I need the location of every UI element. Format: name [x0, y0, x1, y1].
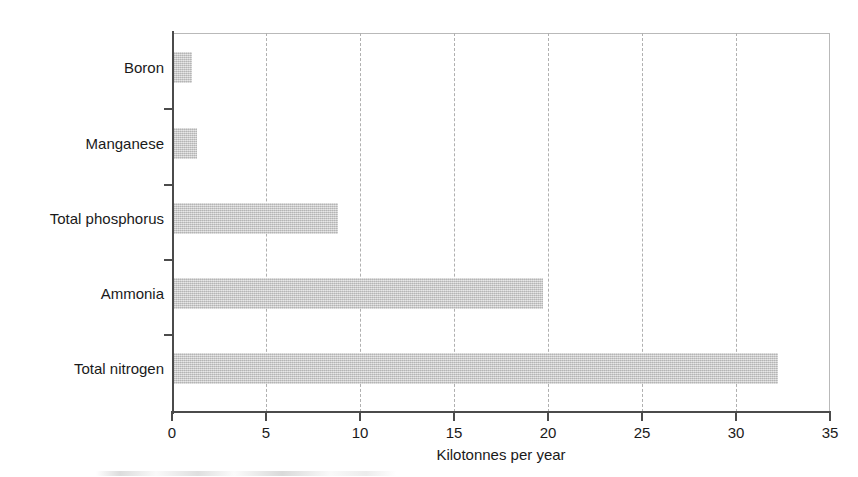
y-category-tick — [164, 259, 173, 261]
x-axis-tick-label-10: 10 — [330, 424, 390, 442]
y-category-label-ammonia: Ammonia — [101, 286, 164, 302]
bar-total-phosphorus — [173, 203, 338, 234]
y-category-tick — [164, 184, 173, 186]
bar-chart-figure: Boron Manganese Total phosphorus Ammonia… — [0, 0, 858, 477]
plot-top-border — [172, 33, 830, 34]
bar-manganese — [173, 128, 197, 159]
x-axis-tick — [641, 413, 643, 421]
y-category-tick — [164, 334, 173, 336]
x-axis-tick — [453, 413, 455, 421]
plot-area — [172, 33, 830, 412]
y-axis-line — [172, 31, 174, 414]
x-axis-tick-label-35: 35 — [800, 424, 858, 442]
y-category-label-boron: Boron — [124, 60, 164, 76]
x-axis-tick-label-20: 20 — [518, 424, 578, 442]
x-axis-tick-label-15: 15 — [424, 424, 484, 442]
x-axis-tick-label-25: 25 — [612, 424, 672, 442]
bar-ammonia — [173, 278, 543, 309]
plot-right-border — [829, 33, 830, 412]
x-axis-tick — [171, 413, 173, 421]
x-axis-title: Kilotonnes per year — [172, 446, 830, 464]
y-category-tick — [164, 108, 173, 110]
bar-boron — [173, 52, 192, 83]
x-axis-tick — [735, 413, 737, 421]
y-category-label-total-phosphorus: Total phosphorus — [50, 211, 164, 227]
x-axis-tick-label-5: 5 — [236, 424, 296, 442]
x-axis-tick-label-30: 30 — [706, 424, 766, 442]
y-category-label-total-nitrogen: Total nitrogen — [74, 361, 164, 377]
bar-total-nitrogen — [173, 353, 778, 384]
x-axis-tick — [265, 413, 267, 421]
x-axis-tick — [829, 413, 831, 421]
x-axis-tick-label-0: 0 — [142, 424, 202, 442]
x-axis-tick — [547, 413, 549, 421]
y-category-label-manganese: Manganese — [86, 136, 164, 152]
x-axis-line — [171, 411, 831, 413]
scan-artifact — [96, 471, 396, 476]
x-axis-tick — [359, 413, 361, 421]
